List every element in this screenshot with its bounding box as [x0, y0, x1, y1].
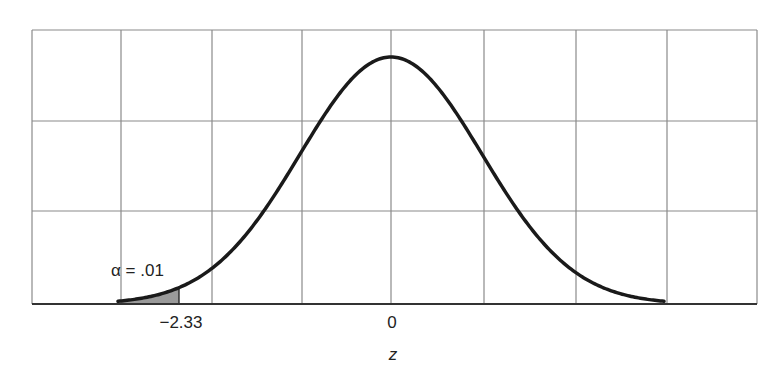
- critical-value-label: −2.33: [159, 313, 202, 333]
- zero-tick-label: 0: [387, 313, 396, 333]
- x-axis-label: z: [389, 345, 398, 365]
- alpha-annotation: α = .01: [111, 261, 164, 281]
